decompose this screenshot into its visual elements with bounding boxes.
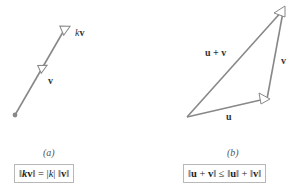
origin-dot: [13, 113, 18, 118]
caption-b: (b): [227, 147, 239, 158]
panel-a-graphic: [13, 22, 70, 118]
formula-a-part: ‖ = |: [32, 168, 48, 179]
caption-a: (a): [43, 147, 55, 158]
label-u-plus-v: u + v: [205, 48, 226, 58]
vector-diagram: [0, 0, 296, 191]
label-kv: kv: [75, 28, 84, 38]
label-v-b: v: [281, 56, 286, 66]
label-kv-vector: v: [79, 27, 84, 38]
vector-sum-line: [187, 10, 283, 117]
formula-b-part: ‖ + ‖: [236, 168, 253, 179]
formula-a-part: ‖: [66, 168, 69, 179]
label-v: v: [48, 76, 53, 86]
vector-kv-line: [15, 32, 63, 115]
formula-a-part: | ‖: [53, 168, 61, 179]
formula-box-b: ‖u + v‖ ≤ ‖u‖ + ‖v‖: [183, 164, 266, 183]
arrowhead-kv-icon: [57, 22, 70, 36]
formula-b-part: +: [197, 168, 208, 179]
label-u: u: [226, 112, 232, 122]
formula-b-part: ‖: [258, 168, 261, 179]
formula-b-part: ‖ ≤ ‖: [213, 168, 230, 179]
panel-b-graphic: [187, 6, 285, 117]
arrowhead-top-icon: [274, 6, 285, 17]
formula-box-a: ‖kv‖ = |k| ‖v‖: [14, 164, 74, 183]
